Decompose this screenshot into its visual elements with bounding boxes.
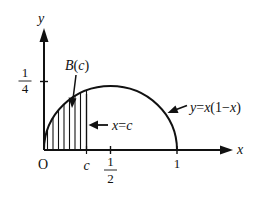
x-axis-label: x (236, 142, 244, 157)
tick-label-one: 1 (174, 156, 181, 171)
area-under-curve-diagram: y x O c 1 2 1 1 4 B(c) x=c (0, 0, 257, 200)
tick-label-c: c (83, 158, 90, 173)
svg-text:y=x(1−x): y=x(1−x) (188, 100, 241, 116)
y-axis-label: y (36, 11, 45, 26)
svg-text:x=c: x=c (111, 118, 133, 133)
origin-label: O (38, 157, 48, 172)
x-axis-arrow-icon (220, 146, 233, 155)
svg-text:B(c): B(c) (65, 58, 89, 74)
x-axis (44, 146, 233, 155)
tick-label-half: 1 2 (104, 154, 117, 186)
svg-text:1: 1 (107, 154, 114, 169)
svg-text:4: 4 (22, 81, 29, 96)
hatched-region (48, 60, 87, 150)
tick-label-quarter: 1 4 (19, 65, 32, 96)
boundary-label: x=c (89, 118, 134, 133)
boundary-arrow-icon (89, 121, 99, 130)
svg-text:1: 1 (22, 65, 29, 80)
curve-pointer-arrow-icon (168, 106, 179, 114)
curve-equation-label: y=x(1−x) (168, 100, 242, 116)
y-axis-arrow-icon (40, 28, 49, 42)
svg-text:2: 2 (107, 171, 114, 186)
